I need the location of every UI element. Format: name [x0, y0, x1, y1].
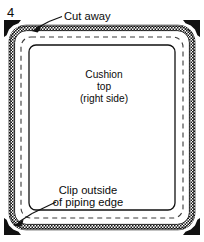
center-label-line1: Cushion	[85, 69, 122, 80]
figure-canvas: 4 Cut away Clip outside of piping edge C…	[0, 0, 204, 242]
callout-clip-outside-line1: Clip outside	[59, 184, 117, 196]
step-number: 4	[7, 5, 14, 20]
callout-clip-outside-line2: of piping edge	[53, 196, 123, 208]
center-label-line3: (right side)	[80, 93, 128, 104]
cushion-cutaway-diagram: 4 Cut away Clip outside of piping edge C…	[0, 0, 204, 242]
center-label-line2: top	[97, 81, 111, 92]
callout-cut-away: Cut away	[64, 10, 111, 22]
